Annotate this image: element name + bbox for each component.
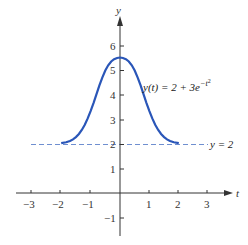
- y-tick-label: −1: [104, 212, 116, 224]
- y-ticks: [120, 46, 124, 218]
- chart-canvas: t y −3 −2 −1 1 2 3 6 5 4 3 2 1 −1 y(t) =…: [0, 0, 248, 245]
- y-tick-label: 4: [110, 89, 116, 101]
- t-tick-label: −3: [23, 198, 35, 210]
- y-axis-arrow-icon: [117, 16, 123, 26]
- t-axis-arrow-icon: [224, 190, 233, 196]
- y-tick-label: 6: [110, 40, 116, 52]
- y-tick-label: 2: [110, 138, 116, 150]
- asymptote-label: y = 2: [209, 138, 234, 150]
- y-tick-label: 5: [110, 64, 116, 76]
- t-tick-label: −1: [82, 198, 94, 210]
- t-tick-label: −2: [52, 198, 64, 210]
- y-axis-label: y: [115, 4, 121, 16]
- t-tick-label: 2: [175, 198, 181, 210]
- t-tick-label: 1: [146, 198, 152, 210]
- y-tick-label: 1: [110, 163, 116, 175]
- t-axis-label: t: [236, 187, 240, 199]
- t-tick-label: 3: [204, 198, 210, 210]
- curve-equation-label: y(t) = 2 + 3e−t2: [142, 78, 211, 94]
- y-tick-label: 3: [110, 114, 116, 126]
